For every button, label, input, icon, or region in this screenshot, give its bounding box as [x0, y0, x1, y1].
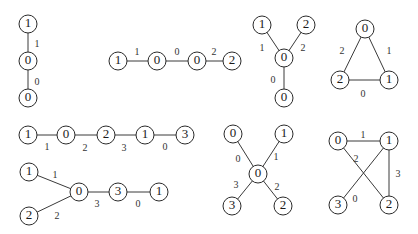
graph-node: 0: [188, 52, 206, 70]
graph-node: 0: [329, 132, 347, 150]
node-label: 1: [142, 126, 149, 141]
graph-node: 0: [275, 89, 293, 107]
node-label: 3: [335, 196, 342, 211]
graph-node: 1: [20, 163, 38, 181]
node-label: 0: [230, 125, 237, 140]
edge-weight-label: 1: [274, 151, 279, 162]
edge-weight-label: 0: [271, 74, 276, 85]
node-label: 1: [259, 16, 266, 31]
edge-weight-label: 2: [275, 181, 280, 192]
graph-node: 2: [274, 197, 292, 215]
graph-node: 0: [19, 89, 37, 107]
node-label: 1: [25, 15, 32, 30]
node-label: 1: [281, 125, 288, 140]
graph-node: 0: [57, 126, 75, 144]
graph-diagram-canvas: 100100212000121021310312010320132 101021…: [0, 0, 418, 234]
edge-weight-label: 0: [35, 76, 40, 87]
graph-node: 1: [275, 125, 293, 143]
graph-node: 2: [297, 16, 315, 34]
edge-labels-layer: 101021202101230123001321230: [35, 38, 401, 221]
node-label: 3: [182, 126, 189, 141]
graph-node: 0: [249, 165, 267, 183]
graph-node: 0: [224, 125, 242, 143]
graph-node: 2: [223, 52, 241, 70]
node-label: 2: [303, 16, 310, 31]
edge-weight-label: 0: [236, 153, 241, 164]
edge-weight-label: 0: [136, 198, 141, 209]
node-label: 0: [281, 49, 288, 64]
edge-weight-label: 2: [340, 45, 345, 56]
edge-weight-label: 2: [354, 153, 359, 164]
node-label: 0: [281, 89, 288, 104]
edge-weight-label: 1: [135, 46, 140, 57]
edge-weight-label: 0: [163, 141, 168, 152]
graph-node: 3: [176, 126, 194, 144]
node-label: 1: [386, 71, 393, 86]
graph-node: 1: [136, 126, 154, 144]
graph-node: 2: [380, 196, 398, 214]
edge-weight-label: 3: [234, 179, 239, 190]
graph-node: 0: [19, 52, 37, 70]
edge-weight-label: 0: [353, 193, 358, 204]
node-label: 3: [115, 183, 122, 198]
node-label: 0: [63, 126, 70, 141]
node-label: 1: [386, 132, 393, 147]
node-label: 1: [156, 183, 163, 198]
graph-node: 0: [148, 52, 166, 70]
edge-weight-label: 3: [95, 198, 100, 209]
node-label: 0: [154, 52, 161, 67]
node-label: 3: [229, 197, 236, 212]
edge-weight-label: 3: [122, 142, 127, 153]
edge-weight-label: 0: [175, 46, 180, 57]
edge-weight-label: 2: [301, 42, 306, 53]
node-label: 2: [280, 197, 287, 212]
graph-node: 1: [109, 52, 127, 70]
node-label: 0: [76, 183, 83, 198]
edge-weight-label: 2: [83, 142, 88, 153]
edge-weight-label: 1: [361, 129, 366, 140]
edge-weight-label: 2: [55, 210, 60, 221]
graph-node: 2: [97, 126, 115, 144]
edge-weight-label: 3: [396, 168, 401, 179]
graph-node: 0: [356, 20, 374, 38]
edge-weight-label: 1: [45, 141, 50, 152]
node-label: 2: [103, 126, 110, 141]
node-label: 0: [335, 132, 342, 147]
edge-weight-label: 1: [35, 38, 40, 49]
node-label: 2: [229, 52, 236, 67]
node-label: 1: [25, 126, 32, 141]
node-label: 0: [194, 52, 201, 67]
edge-weight-label: 1: [53, 169, 58, 180]
graph-node: 1: [150, 183, 168, 201]
edge-weight-label: 1: [260, 42, 265, 53]
graph-node: 3: [109, 183, 127, 201]
graph-node: 1: [19, 126, 37, 144]
node-label: 0: [255, 165, 262, 180]
graph-node: 2: [331, 71, 349, 89]
graph-node: 1: [380, 71, 398, 89]
graph-node: 1: [253, 16, 271, 34]
node-label: 2: [337, 71, 344, 86]
node-label: 0: [25, 52, 32, 67]
node-label: 2: [386, 196, 393, 211]
graph-node: 1: [19, 15, 37, 33]
node-label: 1: [115, 52, 122, 67]
node-label: 2: [26, 207, 33, 222]
graph-node: 0: [275, 49, 293, 67]
node-label: 0: [25, 89, 32, 104]
graph-node: 0: [70, 183, 88, 201]
graph-node: 3: [223, 197, 241, 215]
graph-node: 3: [329, 196, 347, 214]
edge-weight-label: 1: [387, 45, 392, 56]
node-label: 0: [362, 20, 369, 35]
node-label: 1: [26, 163, 33, 178]
graph-node: 1: [380, 132, 398, 150]
edge-weight-label: 0: [361, 88, 366, 99]
graph-node: 2: [20, 207, 38, 225]
edge-weight-label: 2: [212, 46, 217, 57]
